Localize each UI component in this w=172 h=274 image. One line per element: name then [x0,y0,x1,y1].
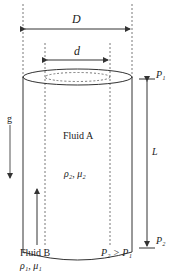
pressure-relation-label: P₂ > P₁ [101,248,132,258]
gravity-label: g [7,114,12,124]
annular-flow-diagram: D d P₁ L P₂ g Fluid A ρ₂, μ₂ Fluid B ρ₁,… [0,0,172,274]
fluid-a-label: Fluid A [63,131,93,141]
bottom-pressure-label: P₂ [156,236,166,246]
outer-top-ellipse [23,69,132,85]
fluid-a-properties: ρ₂, μ₂ [64,169,86,179]
top-pressure-label: P₁ [156,70,166,80]
fluid-b-properties: ρ₁, μ₁ [20,261,42,271]
length-label: L [152,147,158,157]
outer-diameter-label: D [72,13,81,25]
inner-top-ellipse [45,73,110,82]
fluid-b-label: Fluid B [20,248,50,258]
inner-diameter-label: d [74,45,80,57]
